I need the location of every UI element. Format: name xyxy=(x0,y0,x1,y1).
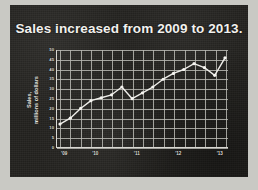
line-chart: Sales, millions of dollars 0510152025303… xyxy=(22,50,236,170)
y-axis-tick-label: 25 xyxy=(42,97,54,101)
x-axis-tick-label: '10 xyxy=(92,151,98,157)
x-axis-tick-labels: '09'10'11'12'13 xyxy=(56,151,228,163)
y-axis-title: Sales, millions of dollars xyxy=(24,50,42,150)
data-point-marker xyxy=(182,68,185,71)
data-point-marker xyxy=(79,107,82,110)
presentation-slide: Sales increased from 2009 to 2013. Sales… xyxy=(10,5,248,177)
grid-line-horizontal xyxy=(57,148,228,149)
y-axis-title-line-2: millions of dollars xyxy=(33,76,40,124)
x-axis-tick-label: '13 xyxy=(217,151,223,157)
data-point-marker xyxy=(223,56,226,59)
x-axis-tick-label: '12 xyxy=(175,151,181,157)
y-axis-tick-labels: 05101520253035404550 xyxy=(42,50,54,148)
data-point-marker xyxy=(213,74,216,77)
x-axis-tick-label: '09 xyxy=(61,151,67,157)
data-point-marker xyxy=(120,85,123,88)
y-axis-tick-label: 30 xyxy=(42,87,54,91)
data-point-marker xyxy=(162,78,165,81)
y-axis-tick-label: 15 xyxy=(42,116,54,120)
y-axis-tick-label: 20 xyxy=(42,107,54,111)
y-axis-tick-label: 50 xyxy=(42,48,54,52)
data-point-marker xyxy=(151,85,154,88)
y-axis-tick-label: 40 xyxy=(42,67,54,71)
data-point-marker xyxy=(58,122,61,125)
data-point-marker xyxy=(131,97,134,100)
x-axis-tick-label: '11 xyxy=(134,151,140,157)
data-point-marker xyxy=(100,96,103,99)
y-axis-tick-label: 5 xyxy=(42,136,54,140)
y-axis-tick-label: 35 xyxy=(42,77,54,81)
y-axis-tick-label: 10 xyxy=(42,126,54,130)
data-point-marker xyxy=(89,99,92,102)
slide-canvas: Sales increased from 2009 to 2013. Sales… xyxy=(0,0,258,190)
y-axis-tick-label: 45 xyxy=(42,58,54,62)
data-point-marker xyxy=(69,117,72,120)
data-point-marker xyxy=(141,91,144,94)
data-point-marker xyxy=(172,72,175,75)
y-axis-title-line-1: Sales, xyxy=(26,76,33,124)
data-point-marker xyxy=(110,93,113,96)
y-axis-tick-label: 0 xyxy=(42,146,54,150)
page-title: Sales increased from 2009 to 2013. xyxy=(10,21,248,36)
data-point-marker xyxy=(192,62,195,65)
data-point-marker xyxy=(203,66,206,69)
plot-area xyxy=(56,50,228,148)
data-series-sales xyxy=(57,50,228,147)
